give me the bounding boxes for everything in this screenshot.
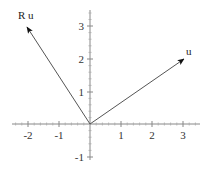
vector-u bbox=[90, 59, 184, 124]
x-tick-label: -1 bbox=[54, 129, 63, 141]
y-tick-label: 3 bbox=[79, 20, 85, 32]
x-tick-label: 1 bbox=[118, 129, 124, 141]
x-tick-label: 2 bbox=[149, 129, 155, 141]
plot-canvas: -2 -1 1 2 3 bbox=[0, 0, 210, 170]
x-tick-label: 3 bbox=[180, 129, 186, 141]
y-tick-label: -1 bbox=[75, 151, 84, 163]
vector-plot: -2 -1 1 2 3 bbox=[0, 0, 210, 170]
vector-ru-label: R u bbox=[18, 9, 34, 21]
vector-u-label: u bbox=[186, 45, 192, 57]
y-tick-label: 1 bbox=[79, 86, 85, 98]
vector-ru bbox=[27, 27, 90, 124]
y-axis: 3 2 1 -1 bbox=[75, 10, 93, 163]
x-tick-label: -2 bbox=[23, 129, 32, 141]
x-axis: -2 -1 1 2 3 bbox=[12, 121, 200, 141]
y-tick-label: 2 bbox=[79, 53, 85, 65]
